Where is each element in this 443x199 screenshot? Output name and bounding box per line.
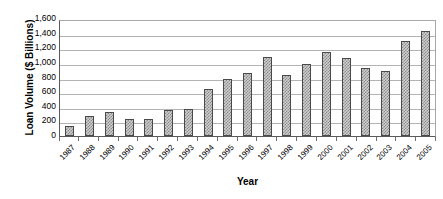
plot-area <box>59 20 436 137</box>
bar-slot <box>198 21 218 136</box>
x-label-slot: 1987 <box>59 141 79 175</box>
bar <box>263 57 272 136</box>
bar <box>204 89 213 136</box>
x-tick-label: 2002 <box>355 143 374 162</box>
bar-slot <box>119 21 139 136</box>
bar <box>125 119 134 136</box>
x-label-slot: 2005 <box>416 141 436 175</box>
y-tick-label: 1,600 <box>22 14 56 23</box>
y-tick-label: 0 <box>22 131 56 140</box>
x-label-slot: 1997 <box>257 141 277 175</box>
bar-slot <box>159 21 179 136</box>
bar <box>243 73 252 136</box>
x-label-slot: 1994 <box>198 141 218 175</box>
y-tick-label: 1,400 <box>22 29 56 38</box>
bar <box>421 31 430 136</box>
x-tick-label: 1991 <box>137 143 156 162</box>
bar-slot <box>277 21 297 136</box>
bar-slot <box>395 21 415 136</box>
y-tick-label: 600 <box>22 87 56 96</box>
bars-layer <box>60 21 435 136</box>
y-tick-label: 400 <box>22 102 56 111</box>
y-tick-label: 1,200 <box>22 43 56 52</box>
y-tick-label: 800 <box>22 73 56 82</box>
bar <box>401 41 410 136</box>
x-tick-label: 1998 <box>276 143 295 162</box>
x-label-slot: 2000 <box>317 141 337 175</box>
bar-slot <box>238 21 258 136</box>
y-axis-tick-labels: 1,600 1,400 1,200 1,000 800 600 400 200 … <box>22 14 56 138</box>
x-label-slot: 1990 <box>119 141 139 175</box>
bar <box>361 68 370 136</box>
y-tick-label: 1,000 <box>22 58 56 67</box>
bar-slot <box>218 21 238 136</box>
x-label-slot: 1999 <box>297 141 317 175</box>
bar <box>302 64 311 136</box>
x-tick-label: 1997 <box>256 143 275 162</box>
x-tick-label: 2001 <box>336 143 355 162</box>
x-label-slot: 1998 <box>277 141 297 175</box>
bar-slot <box>317 21 337 136</box>
bar-chart: Loan Volume ($ Billions) 1,600 1,400 1,2… <box>0 0 443 199</box>
x-tick-label: 2004 <box>395 143 414 162</box>
x-axis-title: Year <box>59 176 436 187</box>
x-label-slot: 1989 <box>99 141 119 175</box>
y-tick-label: 200 <box>22 116 56 125</box>
bar <box>164 110 173 136</box>
bar <box>144 119 153 136</box>
x-tick-label: 1994 <box>197 143 216 162</box>
x-tick-label: 2003 <box>375 143 394 162</box>
x-label-slot: 1993 <box>178 141 198 175</box>
bar-slot <box>139 21 159 136</box>
x-tick-label: 1988 <box>78 143 97 162</box>
bar-slot <box>99 21 119 136</box>
bar-slot <box>60 21 80 136</box>
bar-slot <box>257 21 277 136</box>
bar-slot <box>80 21 100 136</box>
bar <box>282 75 291 136</box>
x-label-slot: 2003 <box>377 141 397 175</box>
x-tick-label: 2000 <box>316 143 335 162</box>
x-label-slot: 1996 <box>238 141 258 175</box>
x-label-slot: 1995 <box>218 141 238 175</box>
x-label-slot: 1992 <box>158 141 178 175</box>
bar <box>85 116 94 136</box>
bar-slot <box>376 21 396 136</box>
x-axis-tick-labels: 1987198819891990199119921993199419951996… <box>59 141 436 175</box>
x-label-slot: 1988 <box>79 141 99 175</box>
x-tick-label: 1995 <box>217 143 236 162</box>
x-tick-label: 1996 <box>236 143 255 162</box>
x-label-slot: 1991 <box>138 141 158 175</box>
x-label-slot: 2004 <box>396 141 416 175</box>
x-label-slot: 2002 <box>357 141 377 175</box>
bar-slot <box>356 21 376 136</box>
x-tick-label: 1987 <box>58 143 77 162</box>
bar <box>381 71 390 136</box>
bar <box>105 112 114 136</box>
bar-slot <box>415 21 435 136</box>
bar <box>184 109 193 136</box>
bar-slot <box>178 21 198 136</box>
x-tick-label: 1993 <box>177 143 196 162</box>
bar-slot <box>336 21 356 136</box>
x-tick-label: 2005 <box>415 143 434 162</box>
x-tick-label: 1990 <box>117 143 136 162</box>
bar <box>65 126 74 136</box>
x-tick-label: 1989 <box>97 143 116 162</box>
bar-slot <box>297 21 317 136</box>
bar <box>322 52 331 136</box>
x-label-slot: 2001 <box>337 141 357 175</box>
x-tick-label: 1992 <box>157 143 176 162</box>
bar <box>342 58 351 136</box>
x-tick-label: 1999 <box>296 143 315 162</box>
bar <box>223 79 232 137</box>
